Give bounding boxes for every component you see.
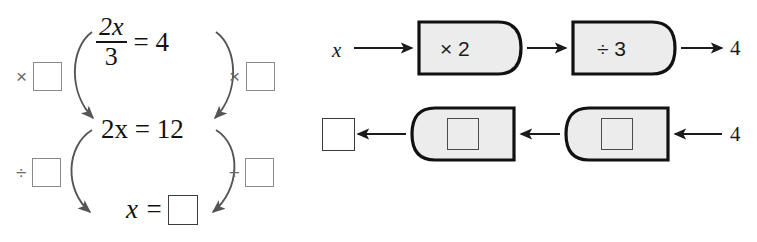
equation-line-2: 2x = 12	[101, 116, 184, 143]
operator-blank-box-multiply-left[interactable]	[33, 62, 62, 91]
fraction-2x-over-3: 2x 3	[96, 14, 127, 70]
worksheet-page: 2x 3 = 4 2x = 12 x = × × ÷ ÷	[0, 0, 757, 242]
divide-sign-right: ÷	[229, 163, 239, 182]
equation-3-lhs: x =	[126, 194, 163, 224]
operator-divide-left: ÷	[16, 158, 61, 187]
forward-input-label-x: x	[332, 40, 341, 61]
operator-divide-right: ÷	[229, 158, 274, 187]
equation-2-text: 2x = 12	[101, 114, 184, 144]
operator-multiply-right: ×	[229, 62, 275, 91]
multiply-sign-left: ×	[16, 67, 27, 86]
machine-blank-box-inverse-left[interactable]	[447, 118, 479, 150]
forward-output-label-4: 4	[730, 38, 741, 59]
curve-arrow-top-left	[75, 32, 93, 118]
fraction-numerator: 2x	[96, 14, 127, 41]
machine-blank-box-inverse-right[interactable]	[601, 118, 633, 150]
equation-line-3: x =	[126, 195, 198, 225]
fraction-denominator: 3	[102, 43, 121, 70]
operator-blank-box-multiply-right[interactable]	[246, 62, 275, 91]
operator-blank-box-divide-right[interactable]	[245, 158, 274, 187]
operator-multiply-left: ×	[16, 62, 62, 91]
machine-label-divide-3: ÷ 3	[597, 38, 626, 59]
machine-label-multiply-2: × 2	[440, 38, 470, 59]
equation-line-1: 2x 3 = 4	[96, 14, 169, 70]
function-machine-diagram: x × 2 ÷ 3 4 4	[318, 0, 757, 242]
divide-sign-left: ÷	[16, 163, 26, 182]
answer-input-box-x[interactable]	[168, 195, 198, 225]
multiply-sign-right: ×	[229, 67, 240, 86]
curve-arrow-bottom-left	[71, 130, 92, 212]
inverse-input-label-4: 4	[730, 124, 741, 145]
equation-1-rhs: = 4	[134, 29, 169, 56]
machine-shapes-group	[318, 0, 757, 242]
inverse-operations-diagram: 2x 3 = 4 2x = 12 x = × × ÷ ÷	[0, 0, 310, 242]
inverse-output-answer-box[interactable]	[322, 118, 355, 151]
machine-shape-multiply-2[interactable]	[419, 22, 521, 74]
operator-blank-box-divide-left[interactable]	[32, 158, 61, 187]
